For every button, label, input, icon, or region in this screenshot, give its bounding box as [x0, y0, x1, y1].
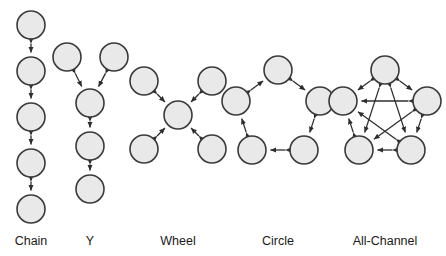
diagram-canvas: ChainYWheelCircleAll-Channel — [0, 0, 446, 256]
network-node — [198, 67, 226, 95]
labels-layer: ChainYWheelCircleAll-Channel — [15, 234, 418, 248]
network-node — [329, 87, 357, 115]
pattern-nodes-chain — [17, 11, 45, 223]
network-node — [17, 103, 45, 131]
network-node — [238, 136, 266, 164]
edge — [358, 81, 370, 90]
network-node — [76, 175, 104, 203]
pattern-label-chain: Chain — [15, 234, 48, 248]
network-node — [198, 135, 226, 163]
edge — [191, 128, 199, 136]
network-node — [17, 149, 45, 177]
network-node — [413, 87, 441, 115]
edge — [191, 94, 199, 102]
edge — [400, 81, 412, 90]
network-node — [76, 132, 104, 160]
network-node — [164, 101, 192, 129]
edge — [293, 81, 305, 90]
pattern-label-all-channel: All-Channel — [353, 234, 418, 248]
pattern-nodes-circle — [222, 56, 334, 164]
edge — [99, 73, 106, 86]
pattern-label-circle: Circle — [262, 234, 294, 248]
network-node — [76, 89, 104, 117]
network-node — [222, 87, 250, 115]
network-node — [17, 195, 45, 223]
pattern-nodes-all-channel — [329, 56, 441, 164]
pattern-label-y: Y — [86, 234, 95, 248]
pattern-nodes-wheel — [130, 67, 226, 163]
edge — [374, 112, 412, 139]
network-node — [130, 135, 158, 163]
edge — [242, 119, 247, 133]
edge — [157, 94, 165, 102]
edge — [157, 128, 165, 136]
network-node — [290, 136, 318, 164]
network-node — [17, 11, 45, 39]
edge — [251, 81, 263, 90]
edge — [310, 119, 315, 133]
network-node — [17, 57, 45, 85]
edge — [75, 74, 81, 87]
network-node — [371, 56, 399, 84]
network-node — [53, 43, 81, 71]
network-node — [100, 43, 128, 71]
pattern-label-wheel: Wheel — [160, 234, 195, 248]
edge — [358, 112, 396, 139]
network-node — [264, 56, 292, 84]
network-node — [130, 67, 158, 95]
nodes-layer — [17, 11, 441, 223]
edge — [417, 119, 422, 133]
network-node — [345, 136, 373, 164]
network-patterns-diagram: ChainYWheelCircleAll-Channel — [0, 0, 446, 256]
edge — [349, 119, 354, 133]
network-node — [397, 136, 425, 164]
